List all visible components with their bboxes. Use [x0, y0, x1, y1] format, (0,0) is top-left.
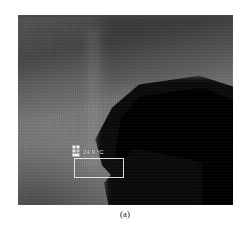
figure-panel: 24.9 °C (a): [0, 0, 250, 232]
thermal-image: 24.9 °C: [18, 15, 233, 205]
thermal-scanline-noise: [18, 15, 233, 205]
figure-caption: (a): [0, 209, 250, 219]
